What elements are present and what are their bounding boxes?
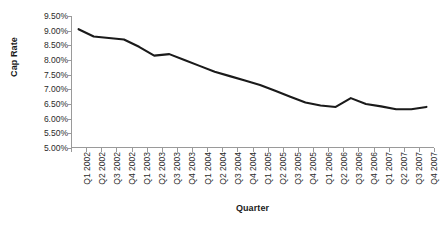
y-axis-tick-mark — [68, 31, 71, 32]
x-axis-tick-label: Q1 2007 — [381, 152, 391, 185]
x-axis-tick-label: Q4 2004 — [245, 152, 255, 185]
x-axis-tick-label: Q1 2006 — [321, 152, 331, 185]
x-axis-tick-label: Q2 2006 — [336, 152, 346, 185]
x-axis-tick-label: Q4 2003 — [184, 152, 194, 185]
x-axis-tick-label: Q2 2005 — [275, 152, 285, 185]
y-axis-tick-label: 7.00% — [28, 84, 68, 94]
x-axis-tick-label: Q4 2007 — [426, 152, 436, 185]
x-axis-tick-label: Q3 2007 — [411, 152, 421, 185]
cap-rate-series-line — [71, 16, 434, 148]
x-axis-tick-label: Q1 2003 — [139, 152, 149, 185]
y-axis-tick-label: 6.50% — [28, 99, 68, 109]
x-axis-tick-label: Q1 2004 — [200, 152, 210, 185]
y-axis-tick-mark — [68, 75, 71, 76]
x-axis-tick-label: Q2 2003 — [154, 152, 164, 185]
x-axis-tick-label: Q2 2007 — [396, 152, 406, 185]
y-axis-tick-label: 8.50% — [28, 40, 68, 50]
plot-area — [71, 16, 434, 148]
y-axis-tick-mark — [68, 16, 71, 17]
y-axis-title: Cap Rate — [9, 17, 19, 97]
y-axis-tick-mark — [68, 89, 71, 90]
x-axis-tick-label: Q4 2005 — [305, 152, 315, 185]
y-axis-tick-label: 7.50% — [28, 70, 68, 80]
y-axis-tick-label: 9.50% — [28, 11, 68, 21]
x-axis-tick-label: Q2 2002 — [94, 152, 104, 185]
x-axis-tick-label: Q3 2004 — [230, 152, 240, 185]
y-axis-tick-mark — [68, 119, 71, 120]
y-axis-tick-label: 6.00% — [28, 114, 68, 124]
cap-rate-line-chart: Cap Rate 9.50%9.00%8.50%8.00%7.50%7.00%6… — [0, 0, 442, 231]
y-axis-tick-mark — [68, 133, 71, 134]
y-axis-tick-label: 5.50% — [28, 128, 68, 138]
y-axis-tick-label: 5.00% — [28, 143, 68, 153]
x-axis-tick-label: Q3 2006 — [351, 152, 361, 185]
x-axis-tick-label: Q3 2005 — [290, 152, 300, 185]
x-axis-tick-label: Q2 2004 — [215, 152, 225, 185]
x-axis-tick-label: Q1 2005 — [260, 152, 270, 185]
y-axis-tick-label: 9.00% — [28, 26, 68, 36]
x-axis-tick-label: Q3 2002 — [109, 152, 119, 185]
y-axis-tick-label: 8.00% — [28, 55, 68, 65]
x-axis-tick-label: Q1 2002 — [79, 152, 89, 185]
x-axis-tick-label: Q4 2006 — [366, 152, 376, 185]
x-axis-tick-label: Q3 2003 — [169, 152, 179, 185]
y-axis-tick-labels: 9.50%9.00%8.50%8.00%7.50%7.00%6.50%6.00%… — [28, 16, 68, 148]
y-axis-tick-mark — [68, 60, 71, 61]
y-axis-tick-mark — [68, 45, 71, 46]
x-axis-tick-label: Q4 2002 — [124, 152, 134, 185]
y-axis-tick-mark — [68, 104, 71, 105]
x-axis-tick-labels: Q1 2002Q2 2002Q3 2002Q4 2002Q1 2003Q2 20… — [71, 152, 434, 200]
x-axis-title: Quarter — [71, 203, 434, 213]
